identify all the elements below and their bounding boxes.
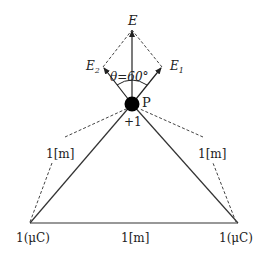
resultant-label: E — [128, 14, 138, 27]
left-dim-upper — [65, 109, 126, 137]
right-side-line — [132, 104, 238, 223]
test-charge-dot — [125, 97, 140, 112]
field-vectors — [104, 31, 161, 104]
base-distance-label: 1[m] — [121, 232, 149, 244]
right-dim-lower — [213, 163, 236, 222]
point-label: P — [142, 96, 151, 109]
right-charge-label: 1(μC) — [219, 232, 253, 244]
right-distance-label: 1[m] — [198, 148, 226, 160]
left-charge-label: 1(μC) — [16, 232, 50, 244]
angle-label: θ=60° — [110, 71, 149, 83]
left-dim-lower — [30, 163, 52, 222]
left-side-line — [30, 104, 132, 223]
charge-label: +1 — [124, 116, 142, 128]
e2-label: E2 — [86, 60, 100, 75]
e1-label: E1 — [170, 60, 184, 75]
electric-field-diagram: E E2 E1 θ=60° P +1 1[m] 1[m] 1[m] 1(μC) … — [0, 0, 261, 256]
left-distance-label: 1[m] — [46, 148, 74, 160]
